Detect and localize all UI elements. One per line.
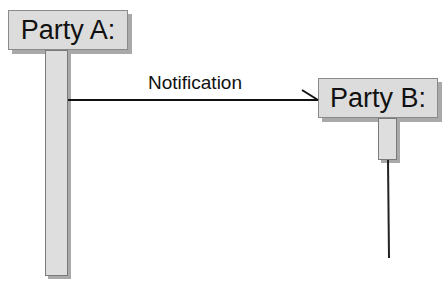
lifeline-party-b — [388, 160, 389, 258]
message-label-notification: Notification — [148, 72, 242, 94]
connector-lines — [0, 0, 447, 288]
